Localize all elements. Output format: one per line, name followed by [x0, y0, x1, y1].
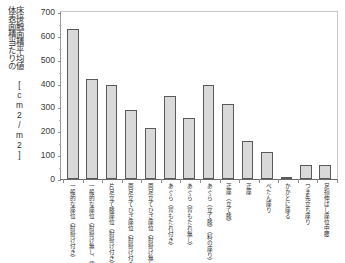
y-axis-tick-labels: 0100200300400500600700: [28, 8, 58, 180]
bar-cell: [180, 12, 199, 179]
x-axis-tick-labels: 一般的な座位（肘掛け付き）一般的な座位（肘掛け無し、背もたれ付き）片足立て膝座位…: [60, 183, 338, 261]
x-axis-tick-label: あぐら（立て膝）（料の座り）: [206, 183, 212, 261]
bar[interactable]: [145, 128, 157, 179]
bar-cell: [277, 12, 296, 179]
x-axis-tick-mark: [278, 179, 279, 183]
bar[interactable]: [281, 177, 293, 179]
bar[interactable]: [261, 152, 273, 179]
bar-cell: [218, 12, 237, 179]
x-axis-tick-mark: [141, 179, 142, 183]
bar-cell: [63, 12, 82, 179]
x-axis-tick-mark: [337, 179, 338, 183]
bar[interactable]: [125, 110, 137, 179]
x-axis-tick-label: 一般的な座位（肘掛け無し、背もたれ付き）: [88, 183, 94, 261]
x-axis-tick-mark: [298, 179, 299, 183]
bar[interactable]: [86, 79, 98, 179]
y-axis-tick-mark: [58, 85, 62, 86]
x-axis-tick-label: 足指伸ばし座位中腰: [323, 183, 329, 237]
y-axis-tick-label: 0: [50, 174, 55, 184]
x-axis-tick-mark: [239, 179, 240, 183]
x-axis-label-cell: つま先立ち座り: [297, 183, 317, 261]
x-axis-tick-mark: [83, 179, 84, 183]
bar[interactable]: [164, 96, 176, 180]
bar-cell: [82, 12, 101, 179]
x-axis-tick-mark: [259, 179, 260, 183]
bar[interactable]: [242, 141, 254, 179]
bar-cell: [121, 12, 140, 179]
x-axis-label-cell: 両足立てひざ座位（肘掛け付き）: [121, 183, 141, 261]
x-axis-tick-mark: [102, 179, 103, 183]
x-axis-tick-mark: [180, 179, 181, 183]
x-axis-tick-label: 正座: [245, 183, 251, 195]
bar[interactable]: [106, 85, 118, 179]
bar[interactable]: [67, 29, 79, 179]
y-axis-minor-tick: [59, 49, 61, 50]
y-axis-tick-label: 200: [41, 126, 55, 136]
bar-cell: [315, 12, 334, 179]
x-axis-tick-mark: [122, 179, 123, 183]
x-axis-tick-label: 正座（立て膝）: [225, 183, 231, 225]
y-axis-tick-mark: [58, 108, 62, 109]
bar-cell: [160, 12, 179, 179]
y-axis-minor-tick: [59, 73, 61, 74]
x-axis-tick-mark: [317, 179, 318, 183]
x-axis-label-cell: ぺたん座り: [258, 183, 278, 261]
x-axis-tick-label: あぐら（背もたれ付き）: [167, 183, 173, 249]
plot-area: [60, 11, 338, 180]
bar-cell: [296, 12, 315, 179]
y-axis-minor-tick: [59, 120, 61, 121]
bar[interactable]: [203, 85, 215, 179]
x-axis-tick-label: あぐら（背もたれ無し）: [186, 183, 192, 249]
bar[interactable]: [300, 165, 312, 179]
x-axis-tick-mark: [161, 179, 162, 183]
x-axis-label-cell: 両足立てひざ座位（肘掛け無し）: [140, 183, 160, 261]
bar-cell: [102, 12, 121, 179]
x-axis-tick-label: 片足立て膝座位（肘掛け付き）: [108, 183, 114, 261]
x-axis-tick-mark: [200, 179, 201, 183]
x-axis-tick-label: 一般的な座位（肘掛け付き）: [69, 183, 75, 261]
x-axis-tick-label: ぺたん座り: [265, 183, 271, 213]
x-axis-label-cell: かかとに座る: [277, 183, 297, 261]
y-axis-tick-label: 600: [41, 31, 55, 41]
x-axis-label-cell: 一般的な座位（肘掛け付き）: [62, 183, 82, 261]
y-axis-tick-mark: [58, 61, 62, 62]
y-axis-title: 体表面積当たりの 床接触面積平均値 [cm2/m2]: [0, 4, 30, 184]
bar-series: [61, 12, 337, 179]
y-axis-tick-label: 100: [41, 150, 55, 160]
x-axis-tick-label: かかとに座る: [284, 183, 290, 219]
x-axis-label-cell: 正座（立て膝）: [219, 183, 239, 261]
y-axis-minor-tick: [59, 25, 61, 26]
y-axis-tick-mark: [58, 156, 62, 157]
y-axis-minor-tick: [59, 144, 61, 145]
bar-cell: [199, 12, 218, 179]
x-axis-tick-mark: [220, 179, 221, 183]
y-axis-tick-label: 400: [41, 79, 55, 89]
y-axis-tick-label: 500: [41, 55, 55, 65]
x-axis-tick-mark: [63, 179, 64, 183]
x-axis-label-cell: 片足立て膝座位（肘掛け付き）: [101, 183, 121, 261]
y-axis-tick-label: 300: [41, 102, 55, 112]
bar-chart: 体表面積当たりの 床接触面積平均値 [cm2/m2] 0100200300400…: [0, 0, 345, 263]
bar[interactable]: [183, 118, 195, 179]
x-axis-tick-label: 両足立てひざ座位（肘掛け付き）: [128, 183, 134, 261]
x-axis-label-cell: あぐら（背もたれ付き）: [160, 183, 180, 261]
bar-cell: [238, 12, 257, 179]
x-axis-tick-label: つま先立ち座り: [304, 183, 310, 225]
x-axis-label-cell: 正座: [238, 183, 258, 261]
y-axis-tick-label: 700: [41, 7, 55, 17]
x-axis-label-cell: 一般的な座位（肘掛け無し、背もたれ付き）: [82, 183, 102, 261]
bar-cell: [141, 12, 160, 179]
y-axis-tick-mark: [58, 132, 62, 133]
y-axis-minor-tick: [59, 168, 61, 169]
bar[interactable]: [222, 104, 234, 179]
y-axis-minor-tick: [59, 97, 61, 98]
x-axis-label-cell: 足指伸ばし座位中腰: [317, 183, 337, 261]
x-axis-label-cell: あぐら（背もたれ無し）: [179, 183, 199, 261]
bar[interactable]: [319, 165, 331, 179]
x-axis-tick-label: 両足立てひざ座位（肘掛け無し）: [147, 183, 153, 261]
x-axis-label-cell: あぐら（立て膝）（料の座り）: [199, 183, 219, 261]
y-axis-tick-mark: [58, 13, 62, 14]
bar-cell: [257, 12, 276, 179]
y-axis-title-line-2: 床接触面積平均値 [cm2/m2]: [15, 6, 23, 182]
y-axis-tick-mark: [58, 37, 62, 38]
